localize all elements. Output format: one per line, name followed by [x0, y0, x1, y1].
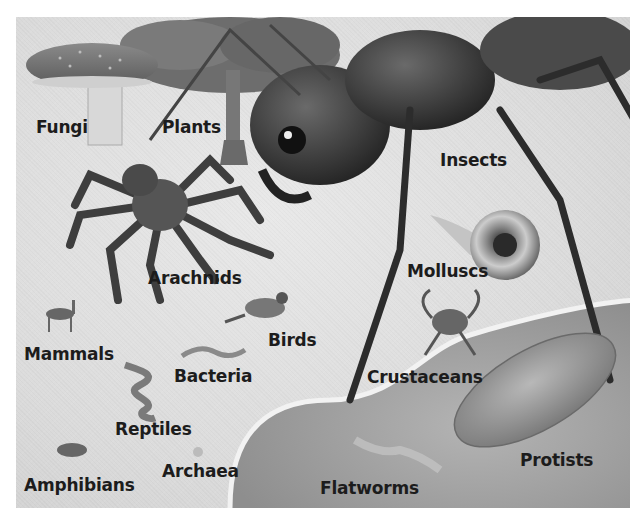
label-flatworms: Flatworms — [320, 478, 419, 498]
label-molluscs: Molluscs — [407, 261, 488, 281]
label-arachnids: Arachnids — [148, 268, 242, 288]
archaea-cell — [193, 447, 203, 457]
label-plants: Plants — [162, 117, 221, 137]
label-protists: Protists — [520, 450, 593, 470]
label-reptiles: Reptiles — [115, 419, 192, 439]
reptiles-snake — [125, 365, 155, 418]
label-amphibians: Amphibians — [24, 475, 135, 495]
bacteria-rod — [182, 349, 245, 356]
label-archaea: Archaea — [162, 461, 239, 481]
label-insects: Insects — [440, 150, 507, 170]
biodiversity-illustration — [16, 17, 630, 508]
illustration-artwork — [16, 17, 630, 508]
label-bacteria: Bacteria — [174, 366, 252, 386]
label-crustaceans: Crustaceans — [367, 367, 483, 387]
label-mammals: Mammals — [24, 344, 114, 364]
arachnids-body — [122, 164, 188, 231]
birds-bird — [225, 292, 288, 322]
label-fungi: Fungi — [36, 117, 88, 137]
mammals-deer — [46, 300, 75, 332]
amphibians-frog — [57, 443, 87, 457]
label-birds: Birds — [268, 330, 316, 350]
